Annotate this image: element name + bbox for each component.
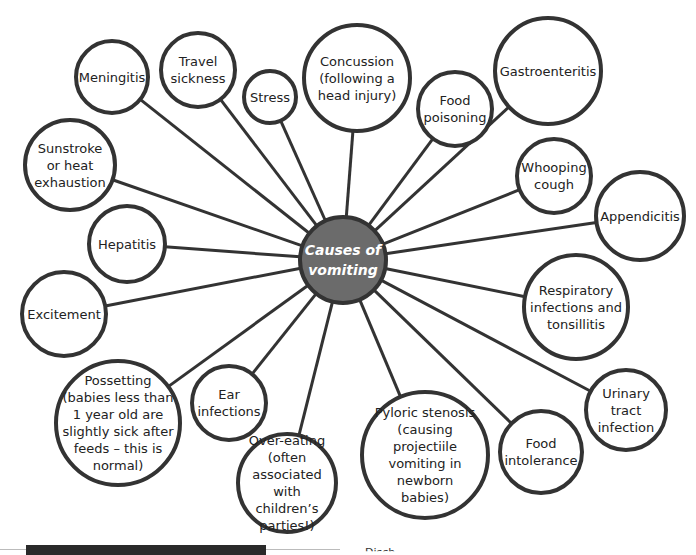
node-label: Excitement — [25, 306, 103, 323]
node-label: Ear infections — [195, 386, 262, 420]
node-label: Pyloric stenosis (causing projectiile vo… — [364, 404, 486, 506]
node-urinary: Urinary tract infection — [584, 368, 668, 452]
node-meningitis: Meningitis — [74, 39, 150, 115]
node-respiratory: Respiratory infections and tonsillitis — [522, 253, 630, 361]
node-sunstroke: Sunstroke or heat exhaustion — [23, 118, 117, 212]
node-label: Urinary tract infection — [596, 385, 656, 436]
node-label: Travel sickness — [169, 53, 228, 87]
node-label: Over-eating (often associated with child… — [240, 432, 334, 534]
node-stress: Stress — [242, 69, 298, 125]
node-label: Sunstroke or heat exhaustion — [32, 140, 108, 191]
node-label: Whooping cough — [519, 159, 588, 193]
node-label: Hepatitis — [96, 236, 158, 253]
center-node: Causes of vomiting — [298, 215, 388, 305]
node-appendicitis: Appendicitis — [594, 170, 686, 262]
node-label: Possetting (babies less than 1 year old … — [61, 372, 176, 474]
connector-ear-infections — [252, 294, 316, 374]
connector-over-eating — [299, 302, 333, 436]
connector-food-poisoning — [369, 139, 433, 226]
node-hepatitis: Hepatitis — [87, 204, 167, 284]
node-label: Food intolerance — [502, 435, 579, 469]
node-label: Respiratory infections and tonsillitis — [528, 282, 624, 333]
node-possetting: Possetting (babies less than 1 year old … — [54, 359, 182, 487]
node-label: Gastroenteritis — [498, 63, 599, 80]
node-excitement: Excitement — [20, 270, 108, 358]
node-whooping-cough: Whooping cough — [515, 137, 593, 215]
node-over-eating: Over-eating (often associated with child… — [236, 432, 338, 534]
node-label: Food poisoning — [422, 92, 489, 126]
page-header-bar — [26, 545, 266, 555]
node-label: Stress — [248, 89, 292, 106]
node-concussion: Concussion (following a head injury) — [302, 23, 412, 133]
connector-concussion — [346, 131, 353, 217]
node-food-intolerance: Food intolerance — [498, 409, 584, 495]
node-travel-sickness: Travel sickness — [159, 31, 237, 109]
mind-map-diagram: MeningitisTravel sicknessStressConcussio… — [0, 0, 696, 555]
node-ear-infections: Ear infections — [190, 364, 268, 442]
node-pyloric-stenosis: Pyloric stenosis (causing projectiile vo… — [360, 390, 490, 520]
node-food-poisoning: Food poisoning — [416, 70, 494, 148]
node-label: Meningitis — [77, 69, 148, 86]
connector-appendicitis — [386, 222, 597, 253]
node-gastroenteritis: Gastroenteritis — [493, 16, 603, 126]
connector-pyloric-stenosis — [360, 300, 401, 397]
connector-hepatitis — [165, 247, 300, 257]
node-label: Concussion (following a head injury) — [316, 53, 398, 104]
node-label: Appendicitis — [598, 208, 682, 225]
center-label: Causes of vomiting — [305, 240, 381, 280]
